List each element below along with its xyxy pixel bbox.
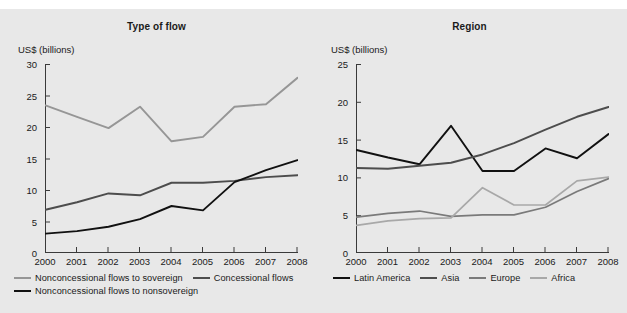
x-tick-label: 2007 [566,256,587,267]
y-tick-label: 15 [26,153,37,164]
x-tick-label: 2003 [129,256,150,267]
legend-item-europe: Europe [469,273,520,283]
x-tick-label: 2005 [192,256,213,267]
x-tick-label: 2005 [503,256,524,267]
legend-label: Africa [551,273,575,283]
y-axis-ticks-left [46,65,51,223]
x-tick-label: 2001 [66,256,87,267]
series-line-africa [357,177,609,225]
y-tick-label: 5 [32,216,37,227]
y-axis-tick-labels-left: 30 25 20 15 10 5 0 [0,64,43,253]
x-tick-label: 2004 [471,256,492,267]
legend-label: Nonconcessional flows to nonsovereign [35,286,198,296]
series-line-latin-america [357,126,609,171]
legend-row-2: Nonconcessional flows to nonsovereign [14,286,306,296]
legend-label: Latin America [354,273,410,283]
axis-lines-left [46,64,299,253]
x-tick-label: 2008 [597,256,618,267]
series-line-europe [357,179,609,217]
legend-swatch-icon [530,277,547,279]
legend-item-latin-america: Latin America [333,273,410,283]
line-chart-svg-right [356,64,609,253]
y-axis-unit-label-left: US$ (billions) [18,44,75,55]
series-line-concessional-flows [46,175,298,210]
legend-item-concessional-flows: Concessional flows [193,273,294,283]
top-white-strip [0,0,627,9]
series-line-nonconcessional-sovereign [46,78,298,141]
x-tick-label: 2001 [377,256,398,267]
legend-label: Europe [490,273,520,283]
y-tick-label: 10 [26,185,37,196]
x-tick-label: 2002 [97,256,118,267]
x-tick-label: 2008 [286,256,307,267]
legend-item-nonconcessional-nonsovereign: Nonconcessional flows to nonsovereign [14,286,198,296]
legend-type-of-flow: Nonconcessional flows to sovereign Conce… [14,273,306,299]
panel-region: Region US$ (billions) 25 20 15 10 5 0 [313,9,626,313]
y-axis-unit-label-right: US$ (billions) [331,44,388,55]
x-axis-ticks-left [46,247,298,253]
x-tick-label: 2006 [223,256,244,267]
legend-swatch-icon [420,277,437,279]
x-tick-label: 2000 [34,256,55,267]
chart-title-type-of-flow: Type of flow [0,21,313,32]
x-tick-label: 2000 [345,256,366,267]
x-axis-ticks-right [357,247,609,253]
y-axis-ticks-right [357,65,362,216]
legend-swatch-icon [193,277,210,279]
figure-container: Type of flow US$ (billions) 30 25 20 15 … [0,0,627,313]
legend-row-1: Nonconcessional flows to sovereign Conce… [14,273,306,283]
y-tick-label: 20 [26,122,37,133]
legend-label: Asia [441,273,459,283]
x-axis-tick-labels-right: 2000 2001 2002 2003 2004 2005 2006 2007 … [356,256,609,270]
x-axis-tick-labels-left: 2000 2001 2002 2003 2004 2005 2006 2007 … [45,256,298,270]
legend-swatch-icon [14,290,31,292]
legend-swatch-icon [14,277,31,279]
line-chart-svg-left [45,64,298,253]
legend-label: Concessional flows [214,273,294,283]
legend-item-nonconcessional-sovereign: Nonconcessional flows to sovereign [14,273,183,283]
y-tick-label: 20 [337,96,348,107]
y-tick-label: 15 [337,134,348,145]
y-tick-label: 25 [337,59,348,70]
legend-swatch-icon [469,277,486,279]
y-tick-label: 10 [337,172,348,183]
legend-item-africa: Africa [530,273,575,283]
legend-item-asia: Asia [420,273,459,283]
legend-region: Latin America Asia Europe Africa [333,273,625,286]
y-tick-label: 30 [26,59,37,70]
x-tick-label: 2003 [440,256,461,267]
x-tick-label: 2004 [160,256,181,267]
x-tick-label: 2007 [255,256,276,267]
legend-row-1: Latin America Asia Europe Africa [333,273,625,283]
x-tick-label: 2002 [408,256,429,267]
y-tick-label: 25 [26,90,37,101]
legend-label: Nonconcessional flows to sovereign [35,273,183,283]
panel-type-of-flow: Type of flow US$ (billions) 30 25 20 15 … [0,9,313,313]
plot-area-region [356,64,609,253]
series-line-nonconcessional-nonsovereign [46,160,298,234]
plot-area-type-of-flow [45,64,298,253]
y-axis-tick-labels-right: 25 20 15 10 5 0 [313,64,354,253]
legend-swatch-icon [333,277,350,279]
x-tick-label: 2006 [534,256,555,267]
y-tick-label: 5 [343,210,348,221]
chart-title-region: Region [313,21,626,32]
